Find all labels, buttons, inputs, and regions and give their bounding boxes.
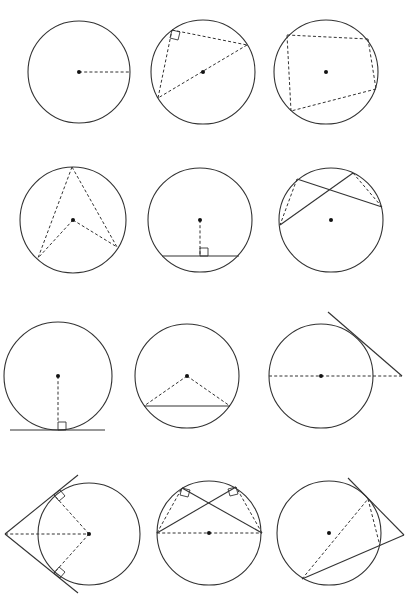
center-point-icon [71,218,75,222]
diagram-radius [28,21,130,123]
center-point-icon [201,70,205,74]
solid-line [302,535,404,579]
diagram-angles-same-segment [279,168,383,272]
dashed-line [72,167,117,247]
diagram-alternate-segment [277,478,404,585]
center-point-icon [185,374,189,378]
right-angle-marker-icon [200,248,208,256]
circle-theorems-sheet [0,0,419,611]
right-angle-marker-icon [170,30,180,40]
solid-line [328,312,402,376]
diagram-tangent-radius [4,322,112,430]
dashed-line [187,376,230,406]
dashed-line [287,35,291,111]
diagram-semicircle-angles [157,481,262,585]
center-point-icon [207,531,211,535]
solid-line [5,534,78,593]
diagram-isosceles-triangle-radii [135,324,239,428]
center-point-icon [329,218,333,222]
diagrams-svg [0,0,419,611]
solid-line [348,478,404,535]
solid-line [280,173,353,225]
right-angle-marker-icon [58,422,66,430]
solid-line [157,487,236,533]
dashed-line [144,376,187,406]
center-point-icon [327,531,331,535]
dashed-line [38,167,72,258]
dashed-line [73,220,117,247]
dashed-line [287,35,368,39]
center-point-icon [319,374,323,378]
dashed-line [38,220,73,258]
diagram-two-tangents [5,475,140,593]
solid-line [5,475,78,534]
dashed-line [158,30,172,98]
center-point-icon [87,532,91,536]
diagram-cyclic-quadrilateral [274,20,378,124]
center-point-icon [324,70,328,74]
diagram-perpendicular-bisector-chord [148,168,252,272]
center-point-icon [198,218,202,222]
diagram-angle-in-semicircle [151,20,255,124]
dashed-line [302,499,368,579]
center-point-icon [56,374,60,378]
center-point-icon [77,70,81,74]
diagram-tangent-from-external-point [269,312,402,428]
diagram-angle-at-centre [20,167,126,273]
dashed-line [368,39,376,89]
